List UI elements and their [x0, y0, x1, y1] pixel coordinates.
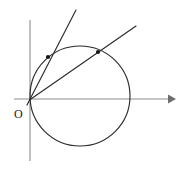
figure-canvas: O	[0, 0, 179, 170]
geometry-figure: O	[0, 0, 179, 170]
x-axis-arrowhead	[168, 95, 176, 104]
steep-ray	[27, 10, 76, 105]
intersection-point-steep	[46, 55, 50, 59]
intersection-point-shallow	[96, 50, 100, 54]
circle-shape	[30, 46, 130, 146]
origin-label: O	[14, 107, 23, 121]
shallow-ray	[30, 26, 137, 100]
